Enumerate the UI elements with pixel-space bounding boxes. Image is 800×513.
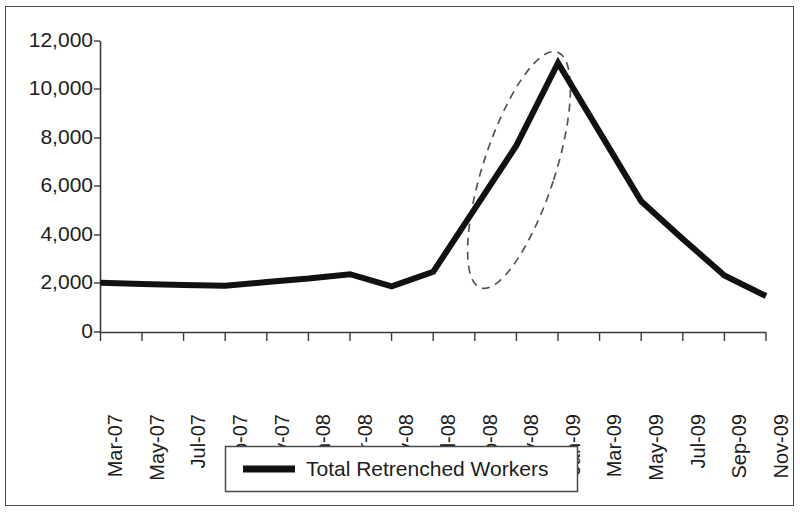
legend-label-total-retrenched-workers: Total Retrenched Workers — [306, 457, 548, 480]
line-chart: 12,000 10,000 8,000 6,000 4,000 2,000 0 — [0, 0, 800, 513]
y-tick-label: 6,000 — [40, 173, 93, 196]
x-tick-label: Sep-09 — [728, 414, 750, 479]
series-line-total-retrenched-workers — [101, 63, 767, 296]
x-tick-label: May-07 — [146, 414, 168, 481]
y-axis — [94, 41, 101, 333]
y-tick-label: 10,000 — [29, 76, 93, 99]
x-tick-label: Jul-09 — [687, 414, 709, 468]
y-tick-label: 12,000 — [29, 28, 93, 51]
x-tick-label: Mar-07 — [104, 414, 126, 477]
y-tick-label: 0 — [81, 319, 93, 342]
y-tick-label: 2,000 — [40, 270, 93, 293]
x-tick-label: May-09 — [645, 414, 667, 481]
y-tick-label: 4,000 — [40, 222, 93, 245]
x-tick-label: Nov-09 — [770, 414, 792, 478]
chart-figure: 12,000 10,000 8,000 6,000 4,000 2,000 0 — [0, 0, 800, 513]
x-tick-marks — [101, 332, 767, 341]
x-tick-label: Jul-07 — [187, 414, 209, 468]
x-axis — [101, 332, 767, 341]
y-tick-label: 8,000 — [40, 125, 93, 148]
y-axis-labels: 12,000 10,000 8,000 6,000 4,000 2,000 0 — [29, 28, 93, 342]
chart-legend: Total Retrenched Workers — [226, 447, 578, 492]
x-tick-label: Mar-09 — [603, 414, 625, 477]
